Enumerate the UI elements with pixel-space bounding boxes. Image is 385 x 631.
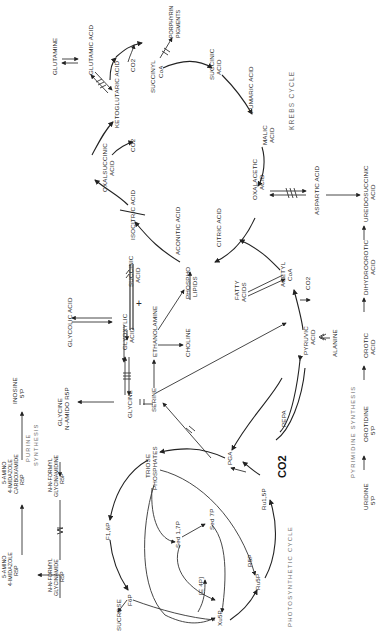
- fl6p-label: F1,6P: [104, 522, 111, 540]
- glycine-amido-label: GLYCINE: [56, 398, 63, 426]
- co2-big-label: CO2: [276, 455, 288, 478]
- formyl-glycinamidine-label-3: R5P: [59, 473, 65, 484]
- r5p-label: R5P: [246, 554, 253, 567]
- aspartic-acid-label: ASPARTIC ACID: [313, 166, 320, 215]
- serine-label: SERINE: [150, 388, 157, 412]
- malic-acid-label-2: ACID: [268, 127, 275, 143]
- citric-acid-label: CITRIC ACID: [215, 208, 222, 247]
- sucrose-label: SUCROSE: [115, 599, 122, 631]
- xu5p-label: Xu5P: [216, 610, 223, 626]
- succinic-acid-label-2: ACID: [215, 59, 222, 75]
- pepa-label: PEPA: [280, 409, 287, 427]
- orotidine-label-2: 5'P: [369, 426, 376, 435]
- glyoxylic-acid-label-2: ACID: [128, 327, 135, 343]
- purine-title: PURINE: [25, 434, 31, 462]
- phospholipids-label-2: LIPIDS: [191, 276, 198, 297]
- uridine-label: URIDINE: [362, 483, 369, 510]
- plus-sign: +: [136, 298, 142, 309]
- amino-imidazole-carboxamide-label-4: R5P: [19, 474, 25, 485]
- amino-imidazole-r5p-label-3: R5P: [13, 565, 19, 576]
- glutamine-label: GLUTAMINE: [51, 38, 58, 75]
- pga-label: PGA: [226, 451, 233, 465]
- oxalacetic-acid-label: OXALACETIC: [251, 158, 258, 200]
- oxalsuccinic-acid-label-2: ACID: [108, 160, 115, 176]
- pyruvic-acid-label-2: ACID: [309, 329, 316, 345]
- porphyrin-label: PORPHYRIN: [168, 6, 174, 38]
- fumaric-acid-label: FUMARIC ACID: [247, 66, 254, 113]
- glycine-amido-label-2: N-AMIDO R5P: [63, 387, 70, 430]
- ru5p-label: Ru5P: [254, 574, 261, 590]
- pyruvic-acid-label: PYRUVIC: [302, 326, 309, 355]
- triose-phosphates-label-2: PHOSPHATES: [151, 446, 158, 490]
- fatty-acids-label: FATTY: [233, 280, 240, 300]
- phospholipids-label: PHOSPHO: [184, 267, 191, 299]
- co2-label-a: CO2: [129, 58, 136, 72]
- ketoglutaric-acid-label: KETOGLUTARIC ACID: [113, 61, 120, 128]
- metabolic-pathway-diagram: GLUTAMINE GLUTAMIC ACID KETOGLUTARIC ACI…: [0, 0, 385, 631]
- inosine-label: INOSINE: [11, 377, 18, 404]
- orotic-acid-label-2: ACID: [369, 339, 376, 355]
- amino-imidazole-carboxamide-label-3: CARBOXAMIDE: [13, 454, 19, 494]
- sed7p-label: Sed 7P: [208, 509, 215, 531]
- formyl-glycinamide-label-3: R5P: [59, 571, 65, 582]
- purine-title-2: SYNTHESIS: [33, 423, 39, 466]
- orotidine-label: OROTIDINE: [362, 406, 369, 442]
- glycine-label: GLYCINE: [126, 390, 133, 418]
- ru15p-label: Ru1,5P: [260, 488, 267, 510]
- dihydroorotic-acid-label: DIHYDROOROTIC: [362, 239, 369, 295]
- co2-label-c: CO2: [304, 276, 311, 290]
- uridine-label-2: 5'P: [369, 496, 376, 505]
- sed17p-label: Sed 1,7P: [174, 521, 181, 548]
- e4p-label: [E 4P]: [197, 577, 204, 595]
- choline-label: CHOLINE: [184, 328, 191, 357]
- pyrimidine-synthesis-title: PYRIMIDINE SYNTHESIS: [350, 386, 356, 478]
- acetyl-coa-label: ACETYL: [279, 261, 286, 287]
- coa-label: CoA: [157, 65, 164, 78]
- ureidosuccinic-acid-label: UREIDOSUCCINIC: [362, 165, 369, 222]
- aconitic-acid-label: ACONITIC ACID: [174, 206, 181, 255]
- ureidosuccinic-acid-label-2: ACID: [369, 184, 376, 200]
- glutamic-acid-label: GLUTAMIC ACID: [87, 24, 94, 75]
- succinic-acid-label: SUCCINIC: [208, 48, 215, 80]
- fatty-acids-label-2: ACIDS: [240, 282, 247, 302]
- oxalsuccinic-acid-label: OXALSUCCINIC: [101, 143, 108, 192]
- inosine-label-2: 5'P: [18, 389, 25, 398]
- orotic-acid-label: OROTIC: [362, 332, 369, 358]
- photosynthetic-cycle-title: PHOTOSYNTHETIC CYCLE: [287, 526, 293, 627]
- acetyl-coa-label-2: CoA: [286, 268, 293, 281]
- dihydroorotic-acid-label-2: ACID: [369, 259, 376, 275]
- oxalacetic-acid-label-2: ACID: [258, 174, 265, 190]
- succinic-acid-2-label-2: ACID: [134, 267, 141, 283]
- ethanolamine-label: ETHANOLAMINE: [151, 306, 158, 357]
- krebs-cycle-title: KREBS CYCLE: [288, 71, 295, 130]
- isocitric-acid-label: ISOCITRIC ACID: [129, 189, 136, 240]
- alanine-label: ALANINE: [331, 329, 338, 357]
- triose-phosphates-label: TRIOSE: [144, 454, 151, 478]
- pigments-label: PIGMENTS: [175, 9, 181, 38]
- glycolic-acid-label: GLYCOLIC ACID: [66, 297, 73, 347]
- succinic-acid-2-label: SUCCINIC: [127, 255, 134, 287]
- glyoxylic-acid-label: GLYOXYLIC: [121, 313, 128, 350]
- malic-acid-label: MALIC: [261, 125, 268, 145]
- succinyl-label: SUCCINYL: [149, 60, 156, 93]
- co2-label-b: CO2: [129, 138, 136, 152]
- f6p-label: F6P: [126, 594, 133, 606]
